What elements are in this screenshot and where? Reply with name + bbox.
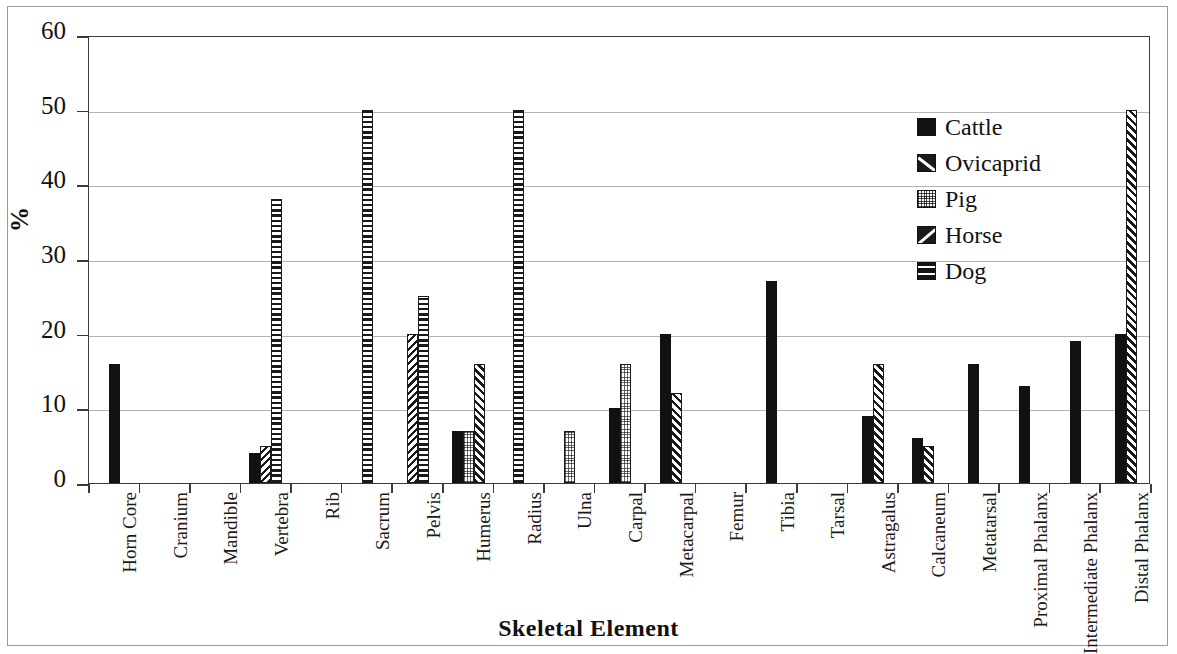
bar-group	[746, 37, 797, 483]
bar-group	[696, 37, 747, 483]
x-axis-tick-label: Proximal Phalanx	[1031, 492, 1050, 628]
y-axis-tick-mark	[77, 335, 88, 337]
bar-group	[797, 37, 848, 483]
y-axis-tick-label: 0	[54, 466, 67, 491]
bar[interactable]	[418, 296, 429, 483]
x-axis-title: Skeletal Element	[0, 615, 1177, 642]
bar[interactable]	[660, 334, 671, 483]
x-axis-label-cranium: Cranium	[164, 492, 183, 559]
legend-item-dog[interactable]: Dog	[917, 253, 1147, 289]
x-axis-tick-label: Pelvis	[424, 492, 443, 538]
legend-label: Dog	[945, 259, 986, 283]
x-axis-tick-label: Femur	[727, 492, 746, 542]
legend-swatch-icon	[917, 226, 936, 244]
bar[interactable]	[249, 453, 260, 483]
y-axis: 6050403020100	[0, 36, 88, 484]
bar-chart-figure: % 6050403020100 CattleOvicapridPigHorseD…	[0, 0, 1177, 654]
y-axis-tick-mark	[77, 484, 88, 486]
bar-group	[342, 37, 393, 483]
bar[interactable]	[452, 431, 463, 483]
x-axis-tick-label: Calcaneum	[929, 492, 948, 577]
bar[interactable]	[862, 416, 873, 483]
bar[interactable]	[109, 364, 120, 483]
bar[interactable]	[474, 364, 485, 483]
bar-group	[241, 37, 292, 483]
bar-group	[494, 37, 545, 483]
y-axis-tick-mark	[77, 185, 88, 187]
x-axis-tick-label: Rib	[323, 492, 342, 519]
x-axis-label-astragalus: Astragalus	[872, 492, 891, 573]
x-axis-label-tarsal: Tarsal	[821, 492, 840, 538]
x-axis-label-ulna: Ulna	[568, 492, 587, 529]
x-axis-tick-label: Humerus	[474, 492, 493, 562]
y-axis-tick-label: 20	[41, 317, 66, 342]
x-axis-label-carpal: Carpal	[619, 492, 638, 543]
bar[interactable]	[766, 281, 777, 483]
x-axis-tick-label: Metatarsal	[980, 492, 999, 572]
y-axis-tick-label: 50	[41, 93, 66, 118]
legend-label: Horse	[945, 223, 1002, 247]
chart-legend: CattleOvicapridPigHorseDog	[917, 109, 1147, 289]
x-axis-tick-label: Tarsal	[828, 492, 847, 538]
legend-label: Ovicaprid	[945, 151, 1041, 175]
bar-group	[443, 37, 494, 483]
bar[interactable]	[620, 364, 631, 483]
x-axis-tick-label: Mandible	[221, 492, 240, 565]
x-axis-label-vertebra: Vertebra	[265, 492, 284, 556]
legend-item-ovicaprid[interactable]: Ovicaprid	[917, 145, 1147, 181]
y-axis-tick-label: 10	[41, 391, 66, 416]
bar[interactable]	[671, 393, 682, 483]
x-axis-tick-label: Radius	[525, 492, 544, 545]
legend-swatch-icon	[917, 262, 936, 280]
x-axis-label-humerus: Humerus	[467, 492, 486, 562]
y-axis-tick-mark	[77, 111, 88, 113]
x-axis-tick-label: Carpal	[626, 492, 645, 543]
x-axis-tick-label: Tibia	[778, 492, 797, 531]
bar[interactable]	[463, 431, 474, 483]
x-axis-label-femur: Femur	[720, 492, 739, 542]
legend-item-horse[interactable]: Horse	[917, 217, 1147, 253]
legend-label: Cattle	[945, 115, 1002, 139]
legend-item-cattle[interactable]: Cattle	[917, 109, 1147, 145]
x-axis-tick-label: Sacrum	[373, 492, 392, 550]
bar[interactable]	[407, 334, 418, 483]
y-axis-tick-label: 30	[41, 242, 66, 267]
bar-group	[544, 37, 595, 483]
x-axis-tick-label: Metacarpal	[677, 492, 696, 577]
bar[interactable]	[271, 199, 282, 483]
x-axis-tick-label: Cranium	[171, 492, 190, 559]
bar[interactable]	[513, 110, 524, 483]
x-axis-tick-label: Vertebra	[272, 492, 291, 556]
y-axis-tick-label: 40	[41, 167, 66, 192]
bar[interactable]	[362, 110, 373, 483]
bar-group	[392, 37, 443, 483]
x-axis-label-radius: Radius	[518, 492, 537, 545]
bar[interactable]	[609, 408, 620, 483]
bar[interactable]	[968, 364, 979, 483]
legend-swatch-icon	[917, 154, 936, 172]
bar[interactable]	[1115, 334, 1126, 483]
bar[interactable]	[912, 438, 923, 483]
bar-group	[595, 37, 646, 483]
bar-group	[291, 37, 342, 483]
y-axis-tick-label: 60	[41, 18, 66, 43]
y-axis-tick-mark	[77, 36, 88, 38]
bar[interactable]	[1070, 341, 1081, 483]
bar[interactable]	[923, 446, 934, 483]
bar[interactable]	[873, 364, 884, 483]
bar-group	[190, 37, 241, 483]
bar-group	[645, 37, 696, 483]
x-axis-tick-label: Horn Core	[120, 492, 139, 573]
x-axis-label-sacrum: Sacrum	[366, 492, 385, 550]
x-axis-tick-label: Ulna	[575, 492, 594, 529]
bar[interactable]	[1019, 386, 1030, 483]
x-axis-label-horn-core: Horn Core	[113, 492, 132, 573]
bar[interactable]	[260, 446, 271, 483]
x-axis-label-metatarsal: Metatarsal	[973, 492, 992, 572]
bar[interactable]	[564, 431, 575, 483]
bar-group	[140, 37, 191, 483]
x-axis-label-calcaneum: Calcaneum	[922, 492, 941, 577]
bar-group	[89, 37, 140, 483]
x-axis-label-tibia: Tibia	[771, 492, 790, 531]
legend-item-pig[interactable]: Pig	[917, 181, 1147, 217]
